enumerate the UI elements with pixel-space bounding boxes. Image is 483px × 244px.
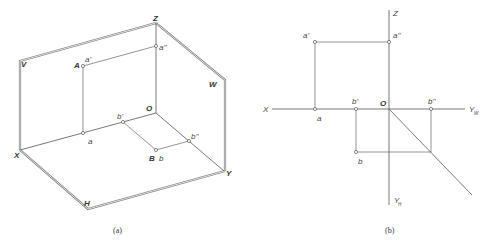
point-b [354,150,357,153]
label-b-prime: b' [117,112,123,121]
projection-line [83,46,156,66]
label-a: a [317,114,322,123]
label-b: b [159,154,164,163]
label-a: a [88,137,93,146]
point-a-double-prime [154,44,157,47]
label-b: b [358,157,363,166]
svg-text:W: W [474,111,479,116]
label-B: B [149,154,155,163]
label-x: X [262,105,269,114]
label-b-double-prime: b'' [191,132,199,141]
projection-line [156,141,189,150]
figure-a: Z V W X Y H O A a' a'' a b' b'' B b (a) [13,14,232,235]
label-v-plane: V [21,60,27,69]
label-o: O [146,104,153,113]
label-a-prime: a' [85,55,91,64]
label-w-plane: W [209,80,218,89]
figure-b: Z X O a' a'' a b' b'' b Y W Y H (b) [262,9,479,235]
h-plane-edge [20,150,225,209]
label-b-double-prime: b'' [428,97,436,106]
label-yw: Y W [469,105,479,116]
label-a-double-prime: a'' [159,43,167,52]
projection-diagram: Z V W X Y H O A a' a'' a b' b'' B b (a) … [0,0,483,244]
projection-line [123,122,156,150]
v-plane-edge [20,23,156,150]
label-a-double-prime: a'' [393,31,401,40]
point-a [313,107,316,110]
label-z: Z [392,9,399,18]
point-a [81,131,84,134]
label-h-plane: H [84,199,90,208]
point-b-double-prime [429,107,432,110]
label-a-prime: a' [303,31,309,40]
label-b-prime: b' [352,97,358,106]
point-b-prime [354,107,357,110]
point-a-double-prime [387,40,390,43]
label-x: X [13,151,20,160]
point-a-prime [313,40,316,43]
label-o: O [380,99,387,108]
caption-a: (a) [113,226,122,235]
label-z: Z [152,14,159,23]
label-yh: Y H [394,196,402,207]
label-y: Y [226,169,232,178]
svg-text:H: H [398,202,402,207]
caption-b: (b) [385,226,395,235]
point-b [154,148,157,151]
label-A: A [73,61,80,70]
point-a-prime [81,64,84,67]
